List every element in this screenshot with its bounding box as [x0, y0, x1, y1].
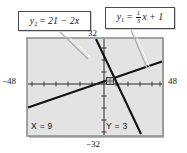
equation-y2-text: y2 = 21 − 2x [30, 16, 79, 27]
equation-y2-subscript: 2 [34, 19, 37, 26]
equation-y2-rhs: 21 − 2x [48, 15, 79, 26]
fraction-denominator: 3 [136, 17, 141, 25]
readout-y-value: Y = 3 [106, 121, 127, 131]
readout-x-value: X = 9 [31, 121, 53, 131]
fraction-numerator: 1 [136, 10, 141, 17]
intersection-cursor[interactable] [107, 78, 114, 85]
equation-y2-equals: = [40, 15, 46, 26]
callout-equation-y2: y2 = 21 − 2x [18, 11, 91, 31]
equation-y1-text: y1 = 13x + 1 [117, 11, 164, 25]
window-xmin-label: −48 [2, 76, 16, 86]
equation-y1-fraction: 13 [136, 10, 141, 24]
equation-y1-subscript: 1 [121, 16, 124, 23]
window-xmax-label: 48 [168, 76, 177, 86]
callout-equation-y1: y1 = 13x + 1 [105, 7, 175, 29]
window-ymax-label: 32 [88, 28, 97, 38]
window-ymin-label: −32 [86, 139, 100, 149]
equation-y1-equals: = [127, 11, 133, 22]
equation-y1-tail: x + 1 [142, 11, 163, 22]
